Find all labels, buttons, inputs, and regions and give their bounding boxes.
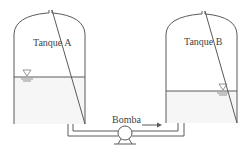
pump-body — [118, 126, 132, 140]
pipe-a-inner — [73, 124, 118, 131]
tank-pump-diagram: Tanque A Tanque B Bomba — [0, 0, 250, 155]
flow-arrow — [142, 123, 162, 128]
pump-label: Bomba — [112, 114, 141, 125]
tank-a-label: Tanque A — [33, 37, 72, 48]
tank-b-water — [166, 91, 237, 123]
tank-b: Tanque B — [166, 11, 237, 123]
pipe-a-outer — [68, 124, 118, 136]
tank-a-water — [14, 77, 85, 124]
tank-a: Tanque A — [14, 10, 85, 124]
arrow-head-icon — [157, 123, 162, 128]
tank-b-label: Tanque B — [184, 36, 223, 47]
pump: Bomba — [112, 114, 141, 144]
tank-a-water-level-icon — [21, 70, 33, 81]
